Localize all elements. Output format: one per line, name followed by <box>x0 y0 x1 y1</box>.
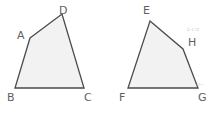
vertex-label-f: F <box>119 92 126 103</box>
annotation-near-g: ジー <box>196 83 205 87</box>
diagram-canvas: A D B C E H F G エイけ ジー <box>0 0 216 114</box>
vertex-label-b: B <box>7 92 15 103</box>
annotation-near-h: エイけ <box>186 28 199 32</box>
vertex-label-c: C <box>84 92 92 103</box>
vertex-label-a: A <box>17 30 25 41</box>
vertex-label-e: E <box>143 5 150 16</box>
vertex-label-d: D <box>59 5 68 16</box>
geometry-figure <box>0 0 216 114</box>
vertex-label-h: H <box>188 37 196 48</box>
quadrilateral-abcd[interactable] <box>15 14 84 88</box>
vertex-label-g: G <box>198 92 207 103</box>
